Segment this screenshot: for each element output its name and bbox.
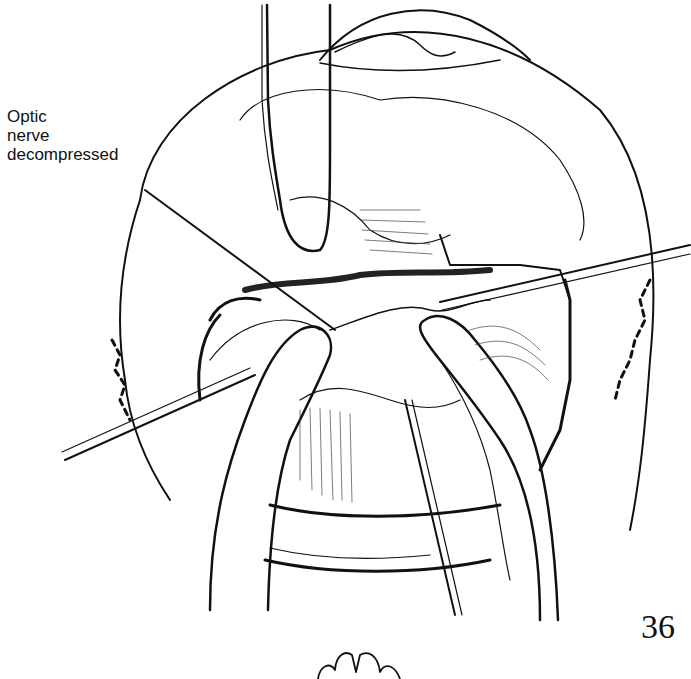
label-leader-line [145,190,335,330]
left-rod [65,375,255,460]
head-outline [140,32,653,530]
illustration-drawing [0,0,691,679]
brain-retractor [267,5,330,251]
probe [405,400,455,615]
label-line-2: nerve [7,126,119,145]
bottom-fragment [318,653,400,679]
surgical-illustration: Optic nerve decompressed 36 [0,0,691,679]
optic-nerve-label: Optic nerve decompressed [7,107,119,164]
label-line-3: decompressed [7,145,119,164]
page-number: 36 [641,608,675,646]
label-line-1: Optic [7,107,119,126]
